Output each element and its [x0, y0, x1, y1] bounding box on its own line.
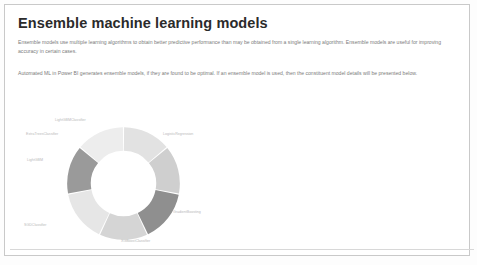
donut-slice-label: LogisticRegression: [163, 132, 193, 137]
page-root: Ensemble machine learning models Ensembl…: [0, 0, 477, 265]
ensemble-donut-chart: LightGBMClassifierLogisticRegressionGrad…: [11, 108, 301, 254]
ensemble-models-card: Ensemble machine learning models Ensembl…: [4, 4, 470, 256]
donut-slice-label: SGDClassifier: [24, 223, 47, 228]
donut-slice-label: XGBoostClassifier: [121, 239, 150, 244]
donut-slice-label: ExtraTreesClassifier: [26, 132, 58, 137]
donut-graphic: [66, 126, 181, 241]
description-paragraph-1: Ensemble models use multiple learning al…: [18, 38, 455, 55]
donut-slice-label: LightGBMClassifier: [55, 118, 86, 123]
donut-svg: [66, 126, 181, 241]
donut-slice[interactable]: [68, 190, 109, 234]
footer-divider: [10, 249, 474, 250]
page-title: Ensemble machine learning models: [18, 15, 268, 31]
description-paragraph-2: Automated ML in Power BI generates ensem…: [18, 69, 455, 78]
donut-slice-label: GradientBoosting: [173, 210, 201, 215]
donut-slice-label: LightGBM: [27, 158, 43, 163]
